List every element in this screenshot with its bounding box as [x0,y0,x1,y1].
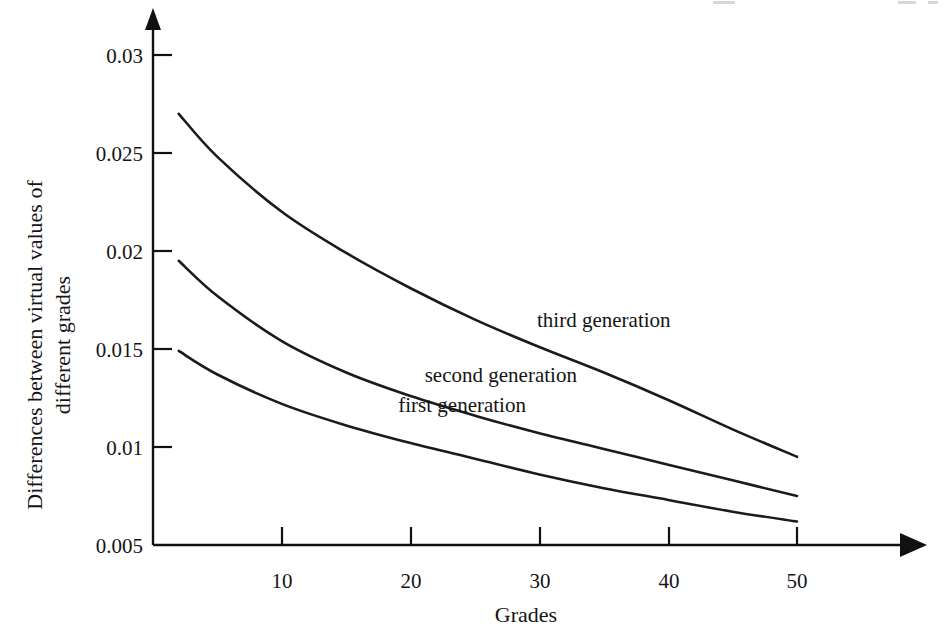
x-tick-label-10: 10 [272,569,293,593]
y-tick-label-0.025: 0.025 [96,142,143,166]
series-annotations: third generationsecond generationfirst g… [398,308,671,416]
y-tick-label-0.02: 0.02 [106,240,143,264]
y-tick-label-0.005: 0.005 [96,534,143,558]
x-tick-marks [282,527,797,545]
y-tick-label-0.03: 0.03 [106,44,143,68]
y-axis-arrow-icon [145,8,161,30]
x-axis-title: Grades [495,602,557,627]
y-tick-label-0.01: 0.01 [106,436,143,460]
y-axis-title: Differences between virtual values of di… [22,180,75,510]
chart-figure: 0.03 0.025 0.02 0.015 0.01 0.005 10 20 3… [0,0,951,641]
y-tick-marks [153,55,172,447]
x-tick-label-40: 40 [659,569,680,593]
x-tick-label-50: 50 [787,569,808,593]
x-axis-arrow-icon [900,533,927,557]
y-axis-title-line1: Differences between virtual values of [22,180,47,510]
series-label-third-generation: third generation [537,308,671,332]
x-tick-label-30: 30 [530,569,551,593]
data-curves [179,114,797,522]
scan-artifacts [713,1,938,4]
y-axis-title-line2: different grades [50,276,75,414]
series-label-second-generation: second generation [425,363,578,387]
x-tick-label-20: 20 [401,569,422,593]
y-tick-label-0.015: 0.015 [96,338,143,362]
y-axis [145,8,161,545]
series-label-first-generation: first generation [398,393,526,417]
line-chart: 0.03 0.025 0.02 0.015 0.01 0.005 10 20 3… [0,0,951,641]
